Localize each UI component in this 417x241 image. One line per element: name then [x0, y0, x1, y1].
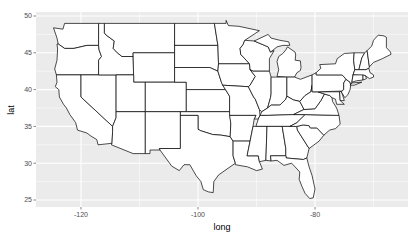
x-axis: -120-100-80	[74, 207, 320, 218]
x-axis-title: long	[213, 222, 230, 232]
state-new-mexico	[145, 112, 180, 154]
state-pennsylvania	[312, 73, 346, 92]
y-axis: 253035404550	[24, 12, 36, 203]
x-tick-label: -100	[191, 211, 205, 218]
y-tick-label: 30	[24, 160, 32, 167]
y-axis-title: lat	[6, 105, 16, 115]
state-north-dakota	[175, 23, 218, 45]
us-states-map-chart: 253035404550 -120-100-80 long lat	[0, 0, 417, 241]
x-tick-label: -80	[310, 211, 320, 218]
y-tick-label: 50	[24, 12, 32, 19]
state-kansas	[186, 90, 229, 112]
state-wyoming	[133, 53, 175, 82]
y-tick-label: 35	[24, 123, 32, 130]
state-oregon	[55, 44, 102, 75]
y-tick-label: 40	[24, 86, 32, 93]
y-tick-label: 45	[24, 49, 32, 56]
y-tick-label: 25	[24, 196, 32, 203]
state-colorado	[145, 82, 186, 112]
x-tick-label: -120	[74, 211, 88, 218]
